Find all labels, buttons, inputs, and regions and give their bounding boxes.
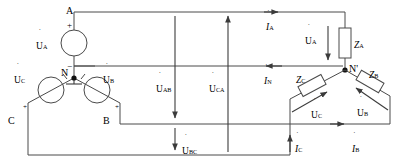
circuit-canvas bbox=[0, 0, 403, 165]
load-impedance-za-label: ZA bbox=[354, 34, 364, 52]
phasor-dot-ib: ˙ bbox=[353, 131, 356, 140]
source-neutral-label: N bbox=[61, 62, 68, 80]
node-n bbox=[71, 75, 76, 80]
load-impedance-zc-label: ZC bbox=[296, 69, 305, 87]
current-ia-label: IA ˙ bbox=[266, 16, 274, 34]
load-voltage-uc-label: UC ˙ bbox=[311, 104, 322, 122]
source-b-voltage-label: UB ˙ bbox=[103, 69, 114, 87]
current-in-label: IN ˙ bbox=[264, 70, 272, 88]
polarity-tick-b bbox=[81, 74, 85, 79]
phasor-dot-ub-load: ˙ bbox=[360, 95, 363, 104]
phasor-dot-ub-src: ˙ bbox=[106, 62, 109, 71]
phasor-dot-uc-src: ˙ bbox=[17, 62, 20, 71]
source-c-voltage-label: UC ˙ bbox=[14, 69, 25, 87]
phasor-dot-ua-src: ˙ bbox=[39, 28, 42, 37]
source-b-plus-sign: + bbox=[115, 95, 119, 113]
load-voltage-ua-label: UA ˙ bbox=[305, 30, 316, 48]
current-ib-label: IB ˙ bbox=[352, 138, 359, 156]
source-c-plus-sign: + bbox=[23, 95, 27, 113]
phasor-dot-uab: ˙ bbox=[159, 71, 162, 80]
phasor-dot-ic: ˙ bbox=[296, 131, 299, 140]
phasor-dot-in: ˙ bbox=[265, 63, 268, 72]
line-voltage-uca-label: UCA ˙ bbox=[209, 78, 224, 96]
phasor-dot-ia: ˙ bbox=[267, 9, 270, 18]
source-a-voltage-label: UA ˙ bbox=[36, 35, 47, 53]
circuit-diagram: A + − UA ˙ N UC ˙ + C UB ˙ bbox=[0, 0, 403, 165]
line-voltage-uab-label: UAB ˙ bbox=[156, 78, 171, 96]
phasor-dot-ua-load: ˙ bbox=[308, 23, 311, 32]
terminal-b-label: B bbox=[103, 110, 110, 128]
load-voltage-ub-label: UB ˙ bbox=[357, 102, 368, 120]
terminal-c-label: C bbox=[8, 110, 15, 128]
phasor-dot-uc-load: ˙ bbox=[314, 97, 317, 106]
source-a-plus-sign: + bbox=[67, 14, 72, 32]
load-impedance-zb-label: ZB bbox=[369, 64, 378, 82]
load-neutral-label: N' bbox=[349, 58, 358, 76]
phasor-dot-uca: ˙ bbox=[212, 71, 215, 80]
line-voltage-ubc-label: UBC ˙ bbox=[182, 140, 197, 158]
phasor-dot-ubc: ˙ bbox=[185, 133, 188, 142]
current-ic-label: IC ˙ bbox=[295, 138, 302, 156]
